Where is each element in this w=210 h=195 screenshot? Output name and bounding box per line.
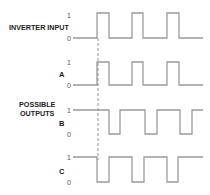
level-low-c: 0 bbox=[67, 179, 71, 186]
label-c: C bbox=[59, 167, 65, 176]
waveform-b bbox=[73, 110, 203, 134]
waveforms bbox=[73, 13, 203, 182]
timing-diagram: INVERTER INPUT A POSSIBLE OUTPUTS B C 1 … bbox=[0, 0, 210, 195]
level-high-b: 1 bbox=[67, 107, 71, 114]
level-low-a: 0 bbox=[67, 82, 71, 89]
level-high-input: 1 bbox=[67, 12, 71, 19]
label-outputs: OUTPUTS bbox=[20, 109, 55, 118]
label-inverter-input: INVERTER INPUT bbox=[9, 23, 70, 32]
label-a: A bbox=[59, 70, 65, 79]
waveform-inverter-input bbox=[73, 13, 203, 38]
level-high-c: 1 bbox=[67, 154, 71, 161]
level-low-b: 0 bbox=[67, 131, 71, 138]
label-possible: POSSIBLE bbox=[19, 100, 56, 109]
waveform-a bbox=[73, 62, 203, 85]
level-low-input: 0 bbox=[67, 35, 71, 42]
level-high-a: 1 bbox=[67, 59, 71, 66]
waveform-c bbox=[73, 157, 203, 182]
label-b: B bbox=[59, 119, 65, 128]
